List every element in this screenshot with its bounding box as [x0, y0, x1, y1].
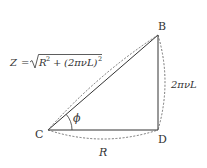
formula-equals: = — [21, 57, 29, 68]
side-label-resistance: R — [98, 146, 107, 159]
angle-arc-phi — [66, 114, 72, 130]
vertex-label-b: B — [158, 20, 166, 33]
dashed-arc-reactance — [158, 35, 165, 130]
formula-plus: + — [53, 57, 61, 68]
formula-reactance-exponent: 2 — [98, 55, 102, 63]
side-label-reactance: 2πνL — [170, 79, 197, 90]
edge-cb-hypotenuse — [48, 35, 158, 130]
hypotenuse-formula: Z = R 2 + (2πνL) 2 — [9, 55, 102, 69]
vertex-label-c: C — [35, 128, 43, 141]
triangle-edges — [48, 35, 158, 130]
formula-reactance-term: (2πνL) — [64, 57, 98, 68]
dashed-arc-resistance — [48, 130, 158, 139]
angle-label-phi: ϕ — [73, 112, 81, 125]
dashed-arcs — [48, 35, 165, 139]
formula-z: Z — [9, 57, 18, 68]
formula-r-exponent: 2 — [46, 55, 50, 63]
vertex-label-d: D — [158, 133, 167, 146]
impedance-triangle-diagram: ϕ B C D 2πνL R Z = R 2 + (2πνL) 2 — [0, 0, 207, 168]
